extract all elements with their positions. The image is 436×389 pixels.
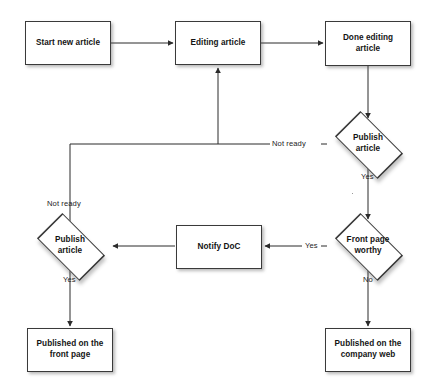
node-published-company-web[interactable]: Published on the company web <box>325 328 411 372</box>
publish-bottom-line-1: Publish <box>55 235 85 244</box>
published-front-line-1: Published on the <box>37 339 104 348</box>
edge-label-no-front-page: No <box>363 275 373 284</box>
node-published-front-page-label: Published on the front page <box>34 339 107 360</box>
node-editing-article-label: Editing article <box>188 38 249 49</box>
flowchart-canvas: back to Editing article --> Front page w… <box>0 0 436 389</box>
published-front-line-2: front page <box>50 350 91 359</box>
published-web-line-1: Published on the <box>335 339 402 348</box>
edge-label-yes-publish-bottom: Yes <box>63 275 76 284</box>
published-web-line-2: company web <box>341 350 396 359</box>
edge-label-yes-publish-top: Yes <box>361 172 374 181</box>
node-published-company-web-label: Published on the company web <box>332 339 405 360</box>
node-done-editing-article[interactable]: Done editing article <box>325 21 411 66</box>
front-page-line-1: Front page <box>347 235 390 244</box>
node-notify-doc-label: Notify DoC <box>195 242 244 253</box>
publish-top-line-2: article <box>356 144 380 153</box>
node-publish-article-bottom-label: Publish article <box>52 235 88 256</box>
done-editing-line-1: Done editing <box>343 33 393 42</box>
front-page-line-2: worthy <box>354 246 381 255</box>
node-front-page-worthy-label: Front page worthy <box>344 235 393 256</box>
node-start-new-article[interactable]: Start new article <box>25 21 111 65</box>
edge-label-not-ready-bottom: Not ready <box>47 199 81 208</box>
node-publish-article-bottom[interactable]: Publish article <box>30 221 110 271</box>
done-editing-line-2: article <box>356 44 380 53</box>
node-front-page-worthy[interactable]: Front page worthy <box>326 221 410 271</box>
publish-bottom-line-2: article <box>58 246 82 255</box>
node-published-front-page[interactable]: Published on the front page <box>27 328 113 372</box>
edge-label-yes-front-page: Yes <box>305 241 318 250</box>
node-start-new-article-label: Start new article <box>33 38 103 49</box>
publish-top-line-1: Publish <box>353 133 383 142</box>
node-publish-article-top-label: Publish article <box>350 133 386 154</box>
node-publish-article-top[interactable]: Publish article <box>328 119 408 169</box>
node-notify-doc[interactable]: Notify DoC <box>176 225 262 269</box>
scan-artifact-speck <box>352 193 353 194</box>
edge-label-not-ready-top: Not ready <box>272 139 306 148</box>
node-editing-article[interactable]: Editing article <box>175 21 261 65</box>
node-done-editing-article-label: Done editing article <box>340 33 396 54</box>
